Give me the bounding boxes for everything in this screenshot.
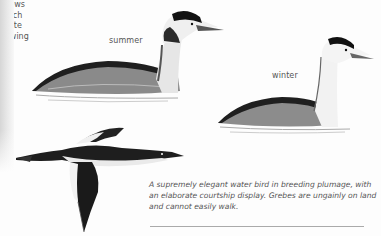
species-description: A supremely elegant water bird in breedi…	[149, 179, 379, 213]
divider-rule	[150, 226, 364, 227]
winter-label: winter	[272, 71, 298, 80]
winter-grebe-illustration	[210, 35, 381, 140]
summer-label: summer	[109, 36, 143, 45]
summer-grebe-illustration	[28, 5, 228, 110]
